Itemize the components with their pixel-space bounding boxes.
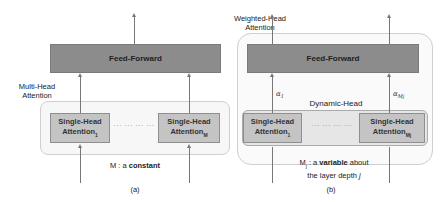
ellipsis-dots: ··· ··· ··· ··· [112,122,156,129]
panel-label-a: (a) [120,185,150,194]
arrow-up-icon [187,73,191,77]
weighted-head-attention-label: Weighted-Head Attention [218,14,302,32]
feed-forward-block: Feed-Forward [247,44,419,73]
arrow-up-icon [187,144,191,148]
feed-forward-block: Feed-Forward [50,44,221,73]
single-head-attention-1: Single-Head Attention1 [243,113,302,143]
arrow-up-icon [270,14,274,18]
output-line-1 [272,17,273,45]
single-head-attention-M: Single-Head AttentionM [158,113,220,143]
single-head-attention-1: Single-Head Attention1 [50,113,110,143]
arrow-up-icon [132,13,136,17]
alpha-Mj-weight: αMj [393,90,404,99]
ellipsis-dots: ··· ··· ··· ··· [306,122,358,129]
multi-head-attention-label: Multi-Head Attention [12,82,62,100]
arrow-up-icon [387,73,391,77]
arrow-up-icon [387,14,391,18]
m-constant-caption: M : a constant [90,161,180,170]
input-line-Mj [389,147,390,183]
mj-variable-caption: Mj : a variable about the layer depth j [284,158,384,180]
feed-forward-label: Feed-Forward [109,54,162,63]
arrow-up-icon [270,73,274,77]
output-line-M [389,17,390,45]
single-head-attention-Mj: Single-Head AttentionMj [359,113,425,143]
input-line-M [189,147,190,183]
arrow-up-icon [78,73,82,77]
feed-forward-label: Feed-Forward [307,54,360,63]
panel-label-b: (b) [316,185,346,194]
arrow-up-icon [78,144,82,148]
alpha-1-weight: α1 [276,90,284,99]
output-arrow-line [134,16,135,44]
input-line-1 [80,147,81,183]
dynamic-head-label: Dynamic-Head [298,99,374,108]
input-line-1 [272,147,273,183]
